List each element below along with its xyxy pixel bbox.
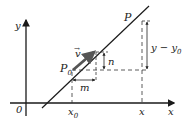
m-label: m xyxy=(80,82,89,93)
n-label: n xyxy=(108,56,114,67)
y-axis-label: y xyxy=(14,20,21,31)
origin-label: 0 xyxy=(16,104,23,115)
point-P0-label: P0 xyxy=(59,62,72,77)
line-L xyxy=(42,6,149,108)
x0-tick-label: x0 xyxy=(68,106,79,120)
x-tick-label: x xyxy=(139,106,145,117)
x-axis-label: x xyxy=(168,106,174,117)
line-diagram: y x 0 P P0 → v n m y − y0 x0 x xyxy=(0,0,184,125)
point-P-label: P xyxy=(123,11,132,24)
y-minus-y0-label: y − y0 xyxy=(150,42,182,56)
vector-v-label: v xyxy=(75,48,81,59)
